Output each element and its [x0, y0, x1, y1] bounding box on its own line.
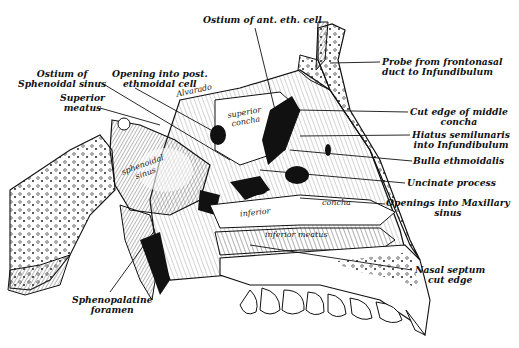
- label-line: foramen: [72, 305, 152, 315]
- label-line: Sphenoidal sinus: [18, 79, 106, 89]
- label-line: meatus: [60, 103, 105, 113]
- label-openings-maxillary-sinus: Openings into Maxillary sinus: [386, 198, 510, 218]
- label-ostium-ant-eth-cell: Ostium of ant. eth. cell: [203, 15, 322, 25]
- label-line: duct to Infundibulum: [382, 67, 502, 77]
- label-inferior-meatus: inferior meatus: [265, 230, 328, 239]
- label-cut-edge-middle-concha: Cut edge of middle concha: [410, 107, 508, 127]
- label-nasal-septum-cut-edge: Nasal septum cut edge: [415, 265, 485, 285]
- label-hiatus-semilunaris: Hiatus semilunaris into Infundibulum: [412, 130, 510, 150]
- label-sphenopalatine-foramen: Sphenopalatine foramen: [72, 295, 152, 315]
- label-line: concha: [410, 117, 508, 127]
- label-inferior-concha-b: concha: [322, 198, 351, 207]
- label-ostium-sphenoidal: Ostium of Sphenoidal sinus: [18, 69, 106, 89]
- label-line: cut edge: [415, 275, 485, 285]
- label-line: into Infundibulum: [412, 140, 510, 150]
- label-line: sinus: [386, 208, 510, 218]
- label-superior-meatus: Superior meatus: [60, 93, 105, 113]
- label-probe-frontonasal: Probe from frontonasal duct to Infundibu…: [382, 57, 502, 77]
- label-uncinate-process: Uncinate process: [407, 178, 496, 188]
- label-bulla-ethmoidalis: Bulla ethmoidalis: [413, 156, 504, 166]
